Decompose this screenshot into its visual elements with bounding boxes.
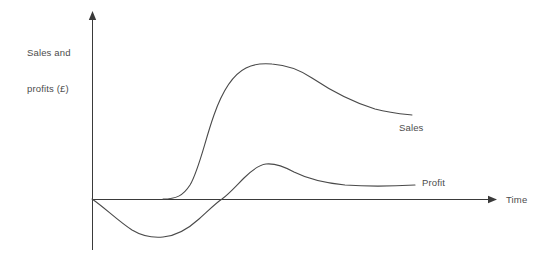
y-axis-title: Sales and profits (£) (27, 23, 71, 119)
y-axis-title-line-1: Sales and (27, 47, 71, 59)
series-label-profit: Profit (422, 177, 445, 189)
product-life-cycle-chart: Sales and profits (£) Time Sales Profit (0, 0, 559, 263)
y-axis-title-line-2: profits (£) (27, 83, 71, 95)
x-axis-title: Time (506, 194, 527, 206)
profit-curve (92, 164, 415, 237)
chart-canvas (0, 0, 559, 263)
series-label-sales: Sales (399, 122, 424, 134)
sales-curve (163, 64, 412, 199)
y-axis-arrow-icon (89, 11, 96, 20)
x-axis-arrow-icon (488, 196, 497, 203)
